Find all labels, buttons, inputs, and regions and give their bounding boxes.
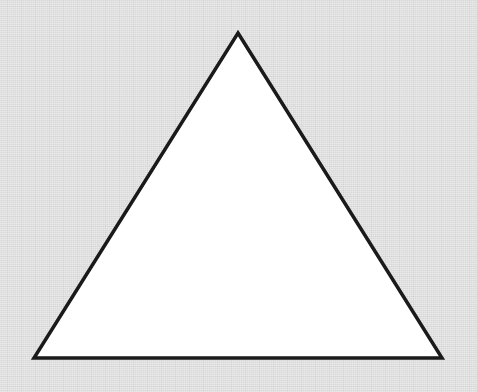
triangle-svg — [0, 0, 477, 392]
shape-layer — [0, 0, 477, 392]
triangle-shape — [34, 33, 442, 358]
figure-canvas — [0, 0, 477, 392]
